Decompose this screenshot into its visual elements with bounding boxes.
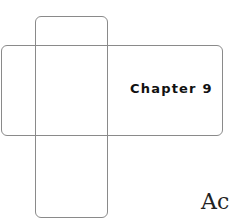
chapter-label: Chapter 9 — [130, 81, 213, 96]
chapter-title: Ac — [201, 189, 229, 214]
